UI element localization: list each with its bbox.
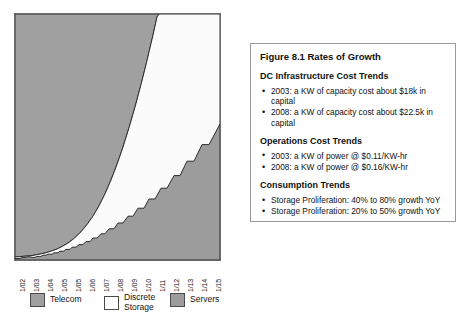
- bullet-item: 2003: a KW of capacity cost about $18k i…: [260, 86, 446, 106]
- plot-svg: [15, 14, 220, 260]
- plot-area: [14, 13, 221, 261]
- legend-swatch-telecom: [30, 293, 45, 307]
- x-axis-tick-labels: 1/02 1/03 1/04 1/05 1/05 1/06 1/07 1/08 …: [14, 262, 221, 294]
- legend-item-telecom[interactable]: Telecom: [30, 293, 82, 307]
- legend-item-discrete-storage[interactable]: Discrete Storage: [104, 293, 155, 312]
- bullet-item: 2003: a KW of power @ $0.11/KW-hr: [260, 151, 446, 161]
- bullet-list-operations-cost: 2003: a KW of power @ $0.11/KW-hr 2008: …: [260, 151, 446, 172]
- chart-legend: Telecom Discrete Storage Servers: [18, 293, 232, 321]
- bullet-item: 2008: a KW of capacity cost about $22.5k…: [260, 107, 446, 127]
- x-tick: 1/02: [19, 279, 26, 292]
- x-tick: 1/14: [201, 279, 208, 292]
- x-tick: 1/05: [61, 279, 68, 292]
- x-tick: 1/08: [117, 279, 124, 292]
- bullet-item: Storage Proliferation: 20% to 50% growth…: [260, 206, 446, 216]
- x-tick: 1/03: [33, 279, 40, 292]
- x-tick: 1/05: [75, 279, 82, 292]
- bullet-list-consumption: Storage Proliferation: 40% to 80% growth…: [260, 195, 446, 216]
- x-tick: 1/11: [159, 280, 166, 292]
- section-heading-operations-cost: Operations Cost Trends: [260, 136, 446, 147]
- figure-title: Figure 8.1 Rates of Growth: [260, 51, 446, 63]
- legend-label-servers: Servers: [190, 295, 219, 305]
- stacked-area-chart: 1/02 1/03 1/04 1/05 1/05 1/06 1/07 1/08 …: [0, 0, 238, 329]
- section-heading-dc-infrastructure: DC Infrastructure Cost Trends: [260, 71, 446, 82]
- x-tick: 1/15: [215, 279, 222, 292]
- legend-label-discrete-storage: Discrete Storage: [124, 293, 155, 312]
- x-tick: 1/07: [103, 279, 110, 292]
- x-tick: 1/06: [89, 279, 96, 292]
- legend-swatch-servers: [170, 293, 185, 307]
- bullet-list-dc-infrastructure: 2003: a KW of capacity cost about $18k i…: [260, 86, 446, 128]
- legend-item-servers[interactable]: Servers: [170, 293, 219, 307]
- figure-callout-box: Figure 8.1 Rates of Growth DC Infrastruc…: [250, 43, 456, 222]
- legend-swatch-discrete-storage: [104, 296, 119, 310]
- x-tick: 1/12: [173, 279, 180, 292]
- section-heading-consumption: Consumption Trends: [260, 180, 446, 191]
- x-tick: 1/04: [47, 279, 54, 292]
- legend-label-telecom: Telecom: [50, 295, 82, 305]
- x-tick: 1/09: [131, 279, 138, 292]
- bullet-item: Storage Proliferation: 40% to 80% growth…: [260, 195, 446, 205]
- x-tick: 1/13: [187, 279, 194, 292]
- bullet-item: 2008: a KW of power @ $0.16/KW-hr: [260, 162, 446, 172]
- x-tick: 1/10: [145, 279, 152, 292]
